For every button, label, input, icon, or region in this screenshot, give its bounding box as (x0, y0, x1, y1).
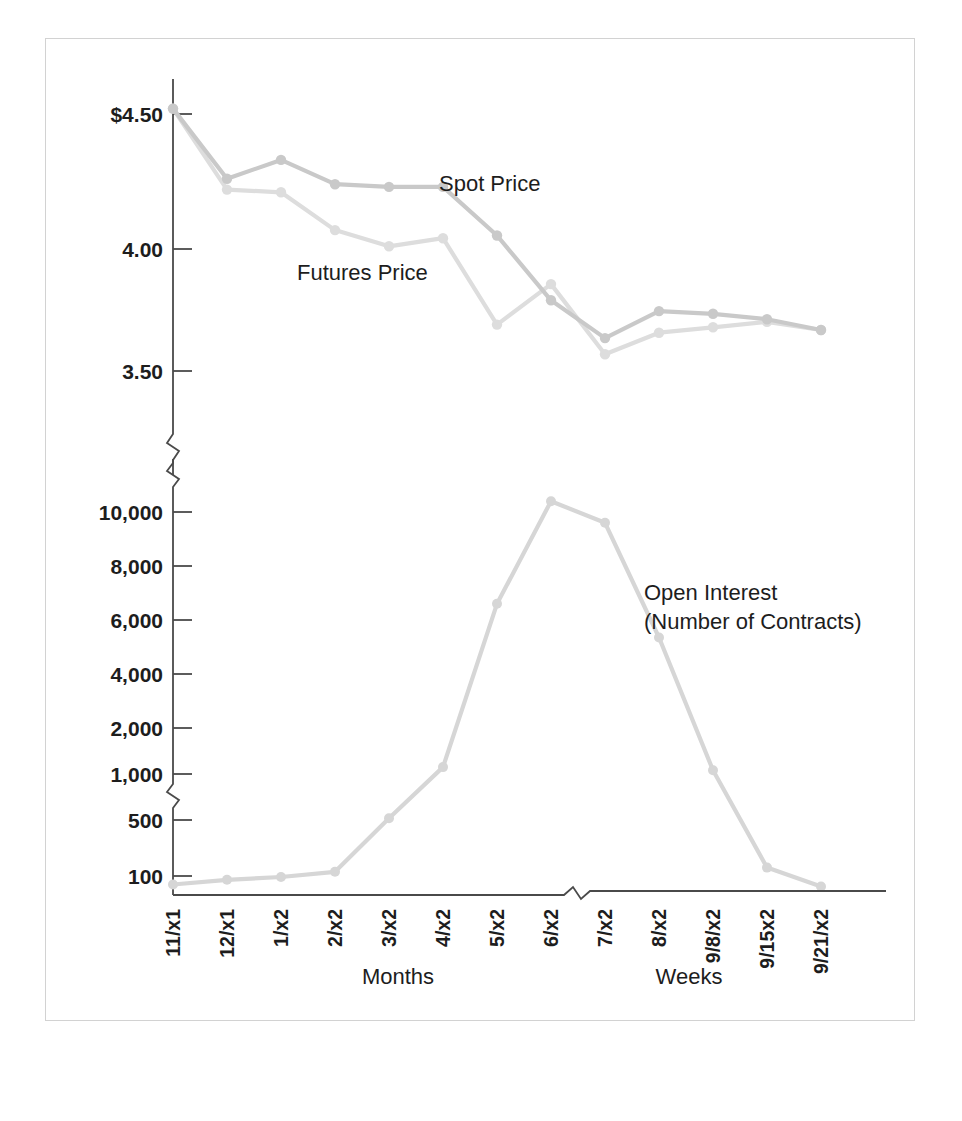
weeks-axis-title: Weeks (656, 964, 723, 989)
spot-price-point (276, 155, 286, 165)
spot-price-point (384, 182, 394, 192)
futures-price-point (600, 349, 610, 359)
ytick-label-2000: 2,000 (110, 717, 163, 740)
futures-price-label: Futures Price (297, 260, 428, 285)
futures-price-point (708, 322, 718, 332)
open-interest-path (173, 501, 821, 886)
spot-price-point (168, 103, 178, 113)
spot-price-point (546, 295, 556, 305)
xtick-label: 7/x2 (594, 909, 616, 947)
open-interest-point (600, 518, 610, 528)
ytick-label-8000: 8,000 (110, 555, 163, 578)
spot-price-point (762, 314, 772, 324)
spot-price-point (816, 325, 826, 335)
xtick-label: 8/x2 (648, 909, 670, 947)
spot-price-point (222, 174, 232, 184)
ytick-label-350: 3.50 (122, 360, 163, 383)
xtick-label: 9/21/x2 (810, 909, 832, 974)
price-panel: $4.50 4.00 3.50 Spot Price Futures Price (110, 79, 826, 475)
price-y-axis (167, 79, 179, 475)
open-interest-point (708, 765, 718, 775)
ytick-label-450: $4.50 (110, 103, 163, 126)
spot-price-path (173, 109, 821, 339)
open-interest-point (546, 496, 556, 506)
spot-price-point (600, 333, 610, 343)
open-interest-panel: 10,000 8,000 6,000 4,000 2,000 1,000 500… (99, 459, 862, 895)
spot-price-point (654, 306, 664, 316)
x-axis (173, 887, 886, 899)
open-interest-point (222, 875, 232, 885)
open-interest-point (816, 882, 826, 892)
spot-price-point (330, 179, 340, 189)
months-axis-title: Months (362, 964, 434, 989)
ytick-label-4000: 4,000 (110, 663, 163, 686)
futures-price-point (276, 187, 286, 197)
open-interest-point (276, 872, 286, 882)
xtick-label: 12/x1 (216, 909, 238, 958)
spot-price-series (168, 103, 826, 343)
open-interest-series (168, 496, 826, 891)
futures-price-point (492, 319, 502, 329)
futures-price-point (330, 225, 340, 235)
spot-price-point (492, 230, 502, 240)
x-tick-labels: 11/x112/x11/x22/x23/x24/x25/x26/x27/x28/… (162, 909, 832, 974)
xtick-label: 11/x1 (162, 909, 184, 957)
xtick-label: 9/15x2 (756, 909, 778, 969)
futures-price-point (438, 233, 448, 243)
price-y-ticks (173, 114, 192, 371)
xtick-label: 1/x2 (270, 909, 292, 947)
figure-frame: $4.50 4.00 3.50 Spot Price Futures Price (45, 38, 915, 1021)
futures-price-point (384, 241, 394, 251)
ytick-label-6000: 6,000 (110, 609, 163, 632)
open-interest-point (438, 762, 448, 772)
xtick-label: 9/8/x2 (702, 909, 724, 963)
spot-price-label: Spot Price (439, 171, 541, 196)
ytick-label-500: 500 (128, 809, 163, 832)
open-interest-point (168, 880, 178, 890)
xtick-label: 3/x2 (378, 909, 400, 947)
chart-canvas: $4.50 4.00 3.50 Spot Price Futures Price (46, 39, 914, 1020)
oi-y-ticks (173, 512, 192, 876)
open-interest-point (762, 863, 772, 873)
open-interest-label-line2: (Number of Contracts) (644, 609, 862, 634)
futures-price-point (654, 328, 664, 338)
xtick-label: 2/x2 (324, 909, 346, 947)
open-interest-point (384, 813, 394, 823)
open-interest-point (654, 633, 664, 643)
open-interest-point (330, 867, 340, 877)
futures-price-point (222, 184, 232, 194)
ytick-label-1000: 1,000 (110, 763, 163, 786)
ytick-label-10000: 10,000 (99, 501, 163, 524)
spot-price-point (708, 309, 718, 319)
futures-price-point (546, 279, 556, 289)
xtick-label: 4/x2 (432, 909, 454, 947)
ytick-label-400: 4.00 (122, 238, 163, 261)
ytick-label-100: 100 (128, 865, 163, 888)
xtick-label: 5/x2 (486, 909, 508, 947)
xtick-label: 6/x2 (540, 909, 562, 947)
open-interest-point (492, 599, 502, 609)
open-interest-label-line1: Open Interest (644, 580, 777, 605)
oi-y-axis (167, 459, 179, 895)
